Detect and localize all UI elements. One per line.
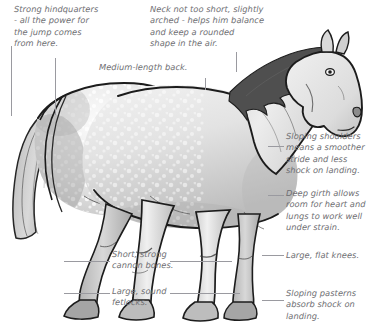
annotation-fetlocks: Large, sound fetlocks. — [112, 286, 212, 309]
annotation-girth: Deep girth allows room for heart and lun… — [286, 188, 384, 234]
leader-line-shoulders — [268, 146, 284, 147]
annotation-shoulders: Sloping shoulders means a smoother strid… — [286, 131, 384, 177]
annotation-pasterns: Sloping pasterns absorb shock on landing… — [286, 288, 384, 322]
annotation-cannon-bones: Short, strong cannon bones. — [112, 249, 212, 272]
annotation-back: Medium-length back. — [99, 62, 249, 73]
horse-conformation-figure: Strong hindquarters - all the power for … — [0, 0, 386, 329]
leader-line-back — [205, 78, 206, 90]
leader-line-knees — [262, 255, 284, 256]
annotation-neck: Neck not too short, slightly arched - he… — [150, 4, 300, 50]
leader-line-pasterns — [262, 300, 284, 301]
leader-line-hindquarters-left — [11, 46, 12, 116]
leader-line-hindquarters-right — [55, 58, 56, 115]
leader-line-fetlocks-left — [64, 293, 110, 294]
annotation-knees: Large, flat knees. — [286, 250, 384, 261]
annotation-hindquarters: Strong hindquarters - all the power for … — [14, 4, 154, 50]
leader-line-cannon-left — [64, 261, 110, 262]
leader-line-girth — [268, 195, 284, 196]
